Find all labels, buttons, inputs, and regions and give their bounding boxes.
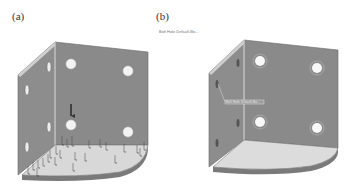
hole [123, 127, 133, 137]
dimension-label[interactable]: Bolt Hole Default-Bo... [226, 100, 260, 104]
bracket-model-a [0, 0, 176, 189]
hole [66, 120, 76, 130]
panel-b: (b) Bolt Hole Default-Bo... Bolt Hole De… [176, 0, 352, 189]
panel-a: (a) [0, 0, 176, 189]
bracket-model-b [176, 0, 352, 189]
hole [123, 66, 133, 76]
panel-label-b: (b) [156, 10, 169, 22]
hole [66, 59, 76, 69]
